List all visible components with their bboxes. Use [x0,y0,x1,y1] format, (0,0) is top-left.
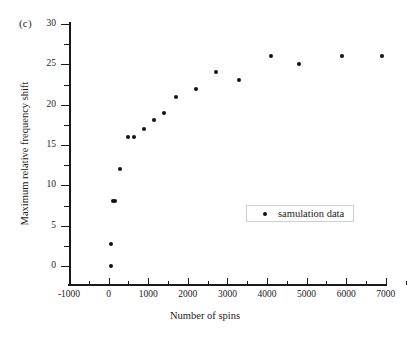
data-point [297,62,301,66]
data-point [118,167,122,171]
legend-label: samulation data [278,208,344,219]
y-tick [61,266,69,267]
data-point [237,78,241,82]
y-axis-title: Maximum relative frequency shift [19,44,30,264]
figure-panel-c: (c) 051015202530 -1000010002000300040005… [0,0,410,337]
data-point [269,54,273,58]
data-point [109,242,113,246]
y-tick [61,105,69,106]
data-point [194,87,198,91]
data-point [109,264,113,268]
data-point [162,111,166,115]
data-point [214,70,218,74]
x-tick-label: 7000 [356,290,410,300]
y-tick [61,185,69,186]
data-point [340,54,344,58]
data-point [152,118,156,122]
y-tick [61,145,69,146]
y-tick [61,64,69,65]
legend-marker-icon [263,212,267,216]
data-point [174,95,178,99]
data-point [142,127,146,131]
x-axis-title: Number of spins [0,310,410,321]
data-point [126,135,130,139]
plot-area [69,24,387,285]
x-tick-minor [406,281,407,285]
data-point [380,54,384,58]
y-tick-label: 30 [22,19,56,29]
y-tick [61,226,69,227]
data-point [132,135,136,139]
legend: samulation data [246,205,354,222]
y-tick [61,24,69,25]
